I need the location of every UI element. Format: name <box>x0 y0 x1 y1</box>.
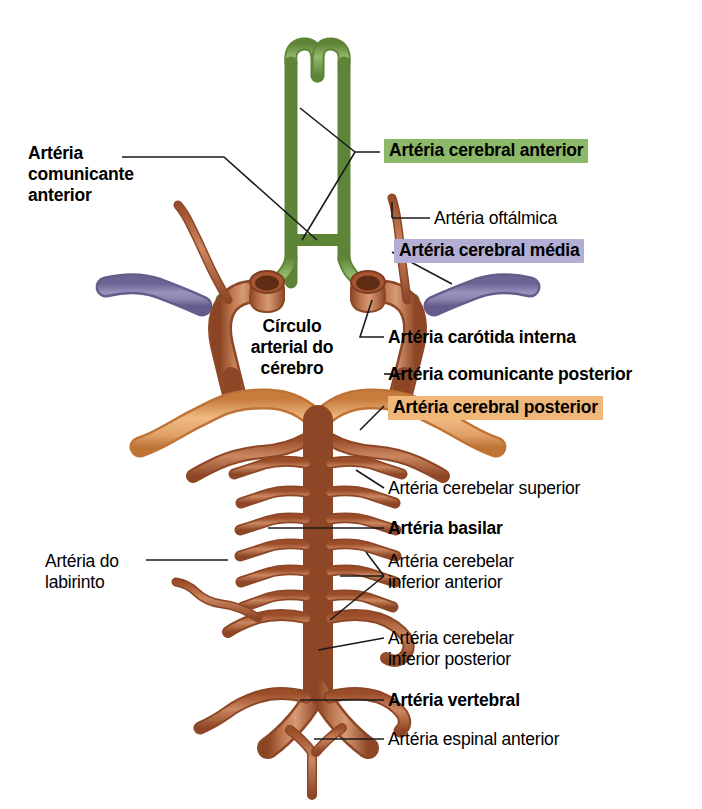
internal-carotid-cut-end-right <box>351 271 385 312</box>
anterior-cerebral-artery-group <box>222 44 413 300</box>
label-arteria-cerebral-posterior: Artéria cerebral posterior <box>388 396 603 420</box>
label-arteria-espinal-anterior: Artéria espinal anterior <box>388 729 559 750</box>
label-arteria-cerebral-anterior: Artéria cerebral anterior <box>384 139 588 163</box>
labyrinthine-artery-group <box>176 582 258 618</box>
label-arteria-do-labirinto: Artéria do labirinto <box>45 551 119 593</box>
label-arteria-cerebelar-inferior-anterior: Artéria cerebelar inferior anterior <box>388 551 514 593</box>
label-arteria-basilar: Artéria basilar <box>388 518 503 539</box>
internal-carotid-cut-end-left <box>250 271 284 312</box>
leader-cerebelar-superior <box>356 470 384 488</box>
label-arteria-vertebral: Artéria vertebral <box>388 690 520 711</box>
label-arteria-oftalmica: Artéria oftálmica <box>434 208 557 229</box>
anterior-spinal-artery-group <box>290 728 342 795</box>
label-arteria-cerebral-media: Artéria cerebral média <box>394 239 584 263</box>
label-circulo-arterial-do-cerebro: Círculo arterial do cérebro <box>228 316 356 379</box>
anatomy-figure: Artéria comunicante anterior Artéria cer… <box>0 0 702 809</box>
middle-cerebral-artery-group <box>106 284 530 306</box>
label-arteria-cerebelar-inferior-posterior: Artéria cerebelar inferior posterior <box>388 628 514 670</box>
label-arteria-comunicante-posterior: Artéria comunicante posterior <box>388 364 632 385</box>
label-arteria-carotida-interna: Artéria carótida interna <box>388 327 576 348</box>
label-arteria-cerebelar-superior: Artéria cerebelar superior <box>388 478 580 499</box>
label-arteria-comunicante-anterior: Artéria comunicante anterior <box>28 143 134 206</box>
